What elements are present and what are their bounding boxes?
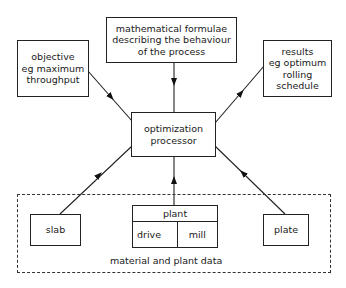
plant-mill-cell: mill bbox=[177, 222, 218, 248]
plant-box: plant drive mill bbox=[132, 205, 218, 248]
group-label: material and plant data bbox=[110, 255, 222, 266]
edge-processor-results bbox=[215, 66, 264, 123]
objective-box: objective eg maximum throughput bbox=[17, 40, 89, 97]
formulae-text: mathematical formulae describing the beh… bbox=[112, 23, 231, 58]
edge-objective-processor bbox=[88, 71, 132, 121]
formulae-box: mathematical formulae describing the beh… bbox=[106, 17, 237, 63]
plant-header: plant bbox=[133, 206, 217, 222]
processor-text: optimization processor bbox=[144, 123, 203, 146]
slab-text: slab bbox=[46, 224, 65, 236]
results-box: results eg optimum rolling schedule bbox=[263, 40, 332, 97]
optimization-processor-box: optimization processor bbox=[131, 112, 216, 157]
plate-text: plate bbox=[274, 224, 298, 236]
plant-drive-cell: drive bbox=[133, 222, 177, 248]
objective-text: objective eg maximum throughput bbox=[22, 51, 85, 86]
plate-box: plate bbox=[263, 214, 309, 246]
results-text: results eg optimum rolling schedule bbox=[269, 46, 327, 92]
slab-box: slab bbox=[30, 214, 81, 246]
